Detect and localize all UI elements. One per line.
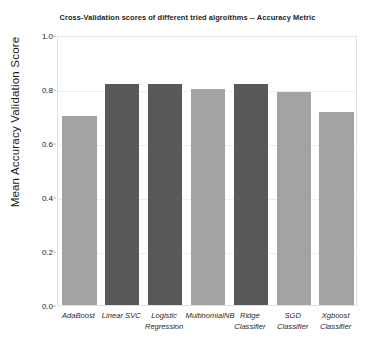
y-tick-label: 1.0 <box>7 32 53 41</box>
bar <box>191 89 225 305</box>
y-tick-label: 0.0 <box>7 302 53 311</box>
y-tick-label: 0.2 <box>7 248 53 257</box>
plot-area <box>57 36 357 306</box>
y-tick-label: 0.6 <box>7 140 53 149</box>
y-tick-mark <box>53 198 56 199</box>
y-tick-mark <box>53 306 56 307</box>
x-tick-label: Ridge Classifier <box>228 311 271 332</box>
bar <box>319 112 353 305</box>
y-tick-mark <box>53 90 56 91</box>
y-tick-label: 0.4 <box>7 194 53 203</box>
bar <box>105 84 139 305</box>
y-tick-label: 0.8 <box>7 86 53 95</box>
chart-title: Cross-Validation scores of different tri… <box>0 13 375 22</box>
y-tick-mark <box>53 252 56 253</box>
bar <box>62 116 96 305</box>
bar <box>148 84 182 305</box>
bar <box>277 92 311 305</box>
x-tick-label: Linear SVC <box>100 311 143 322</box>
x-tick-label: Logistic Regression <box>143 311 186 332</box>
x-tick-label: MultinomialNB <box>186 311 229 322</box>
x-tick-label: AdaBoost <box>57 311 100 322</box>
bar-chart-figure: Cross-Validation scores of different tri… <box>0 0 375 352</box>
x-tick-label: Xgboost Classifier <box>314 311 357 332</box>
y-tick-mark <box>53 36 56 37</box>
x-tick-label: SGD Classifier <box>271 311 314 332</box>
bar <box>234 84 268 305</box>
y-tick-mark <box>53 144 56 145</box>
